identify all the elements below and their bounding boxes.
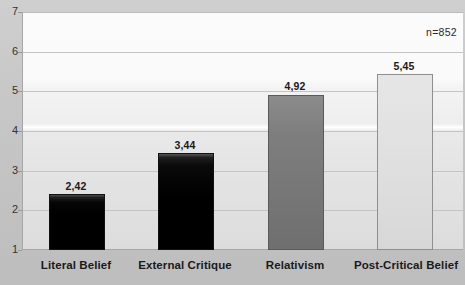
- gridline-7: [23, 12, 463, 13]
- x-axis-label-relativism: Relativism: [251, 259, 339, 271]
- bar-chart: 7 6 5 4 3 2 1 n=852 2,42 3,44 4,92 5,45 …: [0, 0, 465, 285]
- bar-literal-belief[interactable]: [49, 194, 105, 250]
- bar-post-critical-belief[interactable]: [377, 74, 433, 251]
- bar-external-critique[interactable]: [158, 153, 214, 250]
- bar-value-label-literal-belief: 2,42: [48, 180, 104, 192]
- y-axis-tick-5: 5: [0, 84, 18, 96]
- x-axis-label-post-critical-belief: Post-Critical Belief: [348, 259, 464, 271]
- bar-relativism[interactable]: [268, 95, 324, 251]
- y-axis-tick-1: 1: [0, 243, 18, 255]
- y-axis-tick-3: 3: [0, 164, 18, 176]
- sample-size-annotation: n=852: [426, 26, 457, 38]
- plot-area: n=852: [22, 12, 463, 250]
- y-axis-tickmark-1: [18, 250, 22, 251]
- bar-value-label-external-critique: 3,44: [157, 139, 213, 151]
- y-axis-tick-6: 6: [0, 45, 18, 57]
- bar-value-label-relativism: 4,92: [267, 80, 323, 92]
- gridline-6: [23, 52, 463, 53]
- x-axis-label-literal-belief: Literal Belief: [32, 259, 120, 271]
- y-axis-tick-7: 7: [0, 5, 18, 17]
- y-axis-tick-2: 2: [0, 203, 18, 215]
- y-axis-tick-4: 4: [0, 124, 18, 136]
- bar-value-label-post-critical-belief: 5,45: [376, 60, 432, 72]
- x-axis-label-external-critique: External Critique: [131, 259, 239, 271]
